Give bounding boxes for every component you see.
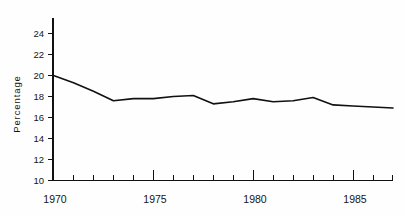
y-tick-label-18: 18 [33,91,44,102]
x-tick-label-1980: 1980 [243,193,267,205]
y-tick-label-20: 20 [33,70,44,81]
x-tick-label-1985: 1985 [343,193,367,205]
line-chart: 24 22 20 18 16 14 12 10 Percentage [0,0,407,217]
y-tick-label-12: 12 [33,154,44,165]
y-tick-label-16: 16 [33,112,44,123]
y-tick-label-22: 22 [33,49,44,60]
y-tick-label-24: 24 [33,28,44,39]
y-tick-label-14: 14 [33,133,44,144]
y-tick-label-10: 10 [33,175,44,186]
chart-background [0,0,407,217]
x-tick-label-1975: 1975 [143,193,167,205]
chart-canvas: 24 22 20 18 16 14 12 10 Percentage [0,0,407,217]
x-tick-label-1970: 1970 [43,193,67,205]
y-axis-title: Percentage [11,75,22,133]
